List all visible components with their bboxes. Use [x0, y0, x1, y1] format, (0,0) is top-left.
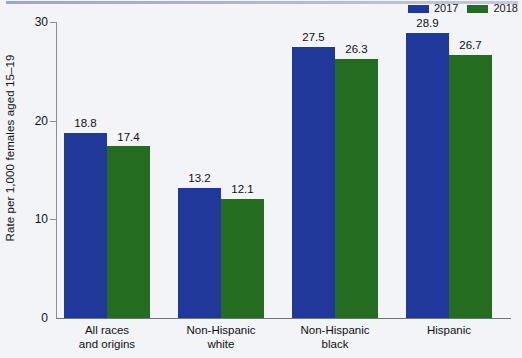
x-category-all-races-line2: and origins [47, 338, 167, 352]
x-category-all-races: All races and origins [47, 324, 167, 351]
x-category-non-hispanic-white: Non-Hispanic white [161, 324, 281, 351]
legend-swatch-2017 [408, 5, 429, 13]
x-category-non-hispanic-white-line2: white [161, 338, 281, 352]
legend-label-2017: 2017 [434, 3, 458, 14]
legend-item-2018: 2018 [467, 3, 517, 14]
bar-label-2017-non-hispanic-black: 27.5 [292, 32, 335, 44]
bar-label-2018-non-hispanic-black: 26.3 [335, 44, 378, 56]
bar-2018-non-hispanic-white[interactable] [221, 199, 264, 318]
legend-swatch-2018 [467, 5, 488, 13]
x-category-non-hispanic-black-line1: Non-Hispanic [275, 324, 395, 338]
bar-2017-non-hispanic-black[interactable] [292, 47, 335, 318]
x-axis-line [56, 318, 511, 319]
y-axis-title-text: Rate per 1,000 females aged 15–19 [4, 55, 16, 242]
y-tick-label-0: 0 [22, 312, 48, 324]
legend-label-2018: 2018 [493, 3, 517, 14]
x-category-non-hispanic-black-line2: black [275, 338, 395, 352]
x-category-hispanic-line1: Hispanic [389, 324, 509, 338]
bar-label-2018-hispanic: 26.7 [449, 40, 492, 52]
bar-2018-all-races[interactable] [107, 146, 150, 318]
bar-label-2017-all-races: 18.8 [64, 118, 107, 130]
bar-label-2017-non-hispanic-white: 13.2 [178, 173, 221, 185]
bar-2018-hispanic[interactable] [449, 55, 492, 318]
x-category-non-hispanic-black: Non-Hispanic black [275, 324, 395, 351]
y-tick-label-30: 30 [22, 16, 48, 28]
y-tick-mark-0 [50, 318, 56, 319]
y-tick-label-20: 20 [22, 115, 48, 127]
plot-area: 30 20 10 0 18.8 17.4 13.2 12.1 27.5 26.3 [56, 22, 511, 318]
bar-label-2018-all-races: 17.4 [107, 132, 150, 144]
x-category-non-hispanic-white-line1: Non-Hispanic [161, 324, 281, 338]
y-tick-mark-10 [50, 219, 56, 220]
y-axis-title: Rate per 1,000 females aged 15–19 [2, 0, 18, 296]
legend-item-2017: 2017 [408, 3, 458, 14]
bar-label-2017-hispanic: 28.9 [406, 18, 449, 30]
bar-2017-non-hispanic-white[interactable] [178, 188, 221, 318]
x-category-all-races-line1: All races [47, 324, 167, 338]
y-tick-label-10: 10 [22, 213, 48, 225]
y-tick-mark-30 [50, 22, 56, 23]
y-tick-mark-20 [50, 121, 56, 122]
bar-2017-all-races[interactable] [64, 133, 107, 319]
bar-chart: 2017 2018 Rate per 1,000 females aged 15… [0, 0, 522, 358]
x-category-hispanic: Hispanic [389, 324, 509, 338]
bar-label-2018-non-hispanic-white: 12.1 [221, 184, 264, 196]
bar-2018-non-hispanic-black[interactable] [335, 59, 378, 319]
legend: 2017 2018 [408, 3, 518, 14]
bar-2017-hispanic[interactable] [406, 33, 449, 318]
y-axis-line [56, 22, 57, 318]
